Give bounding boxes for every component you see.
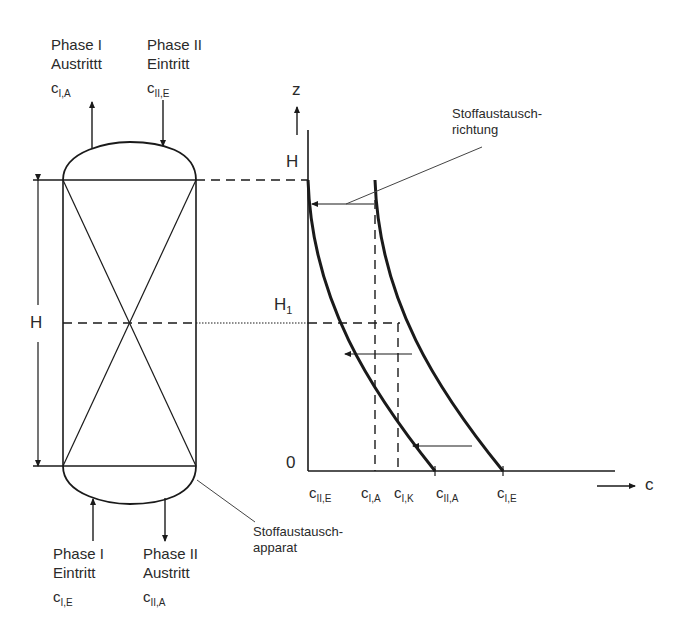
tick-h1-label: H1 <box>274 295 292 316</box>
flow-name: Austritt <box>143 563 198 582</box>
bottom-right-phase-label: Phase II Austritt <box>143 544 198 582</box>
bottom-left-phase-label: Phase I Eintritt <box>53 544 104 582</box>
flow-name: Eintritt <box>147 54 202 73</box>
apparatus-leader-line <box>197 480 255 522</box>
phase-name: Phase I <box>53 544 104 563</box>
phase2-concentration-curve <box>308 180 435 471</box>
top-left-concentration: cI,A <box>51 79 71 99</box>
top-left-phase-label: Phase I Austrittt <box>51 35 102 73</box>
transfer-direction-label: Stoffaustausch- richtung <box>452 106 542 138</box>
apparatus-label: Stoffaustausch- apparat <box>253 524 343 556</box>
x-tick-c-ie: cI,E <box>497 484 517 504</box>
z-axis-label: z <box>292 80 301 100</box>
x-tick-c-ia: cI,A <box>361 484 381 504</box>
phase-name: Phase II <box>143 544 198 563</box>
top-dome <box>63 142 196 180</box>
x-tick-c-iia: cII,A <box>436 484 459 504</box>
flow-name: Austrittt <box>51 54 102 73</box>
concentration-graph <box>297 107 635 486</box>
flow-name: Eintritt <box>53 563 104 582</box>
x-tick-c-ik: cI,K <box>394 484 414 504</box>
bottom-left-concentration: cI,E <box>53 588 73 608</box>
phase-name: Phase I <box>51 35 102 54</box>
tick-h-label: H <box>286 152 298 172</box>
phase-name: Phase II <box>147 35 202 54</box>
top-right-concentration: cII,E <box>147 79 170 99</box>
mass-transfer-diagram <box>0 0 690 630</box>
direction-leader-line <box>346 147 482 204</box>
bottom-dome <box>63 466 196 504</box>
x-tick-c-iie: cII,E <box>309 484 332 504</box>
tick-zero-label: 0 <box>286 453 295 473</box>
c-axis-label: c <box>645 475 654 495</box>
exchange-column <box>33 142 196 504</box>
phase1-concentration-curve <box>375 180 503 471</box>
column-height-label: H <box>29 313 43 333</box>
bottom-right-concentration: cII,A <box>143 588 166 608</box>
top-right-phase-label: Phase II Eintritt <box>147 35 202 73</box>
